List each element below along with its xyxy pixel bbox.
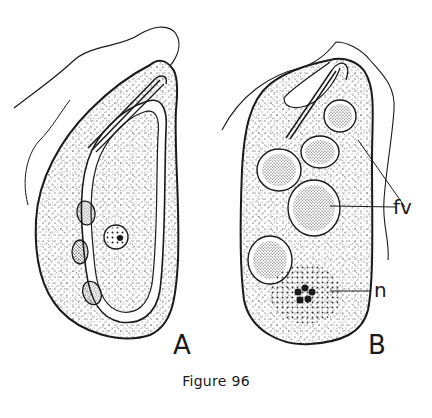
figure-caption: Figure 96 bbox=[0, 373, 432, 389]
annotation-nucleus: n bbox=[374, 278, 387, 302]
annotation-food-vacuole: fv bbox=[393, 195, 412, 219]
panel-label-a: A bbox=[173, 330, 191, 360]
panel-label-b: B bbox=[368, 330, 386, 360]
panel-a-cell bbox=[14, 27, 179, 338]
